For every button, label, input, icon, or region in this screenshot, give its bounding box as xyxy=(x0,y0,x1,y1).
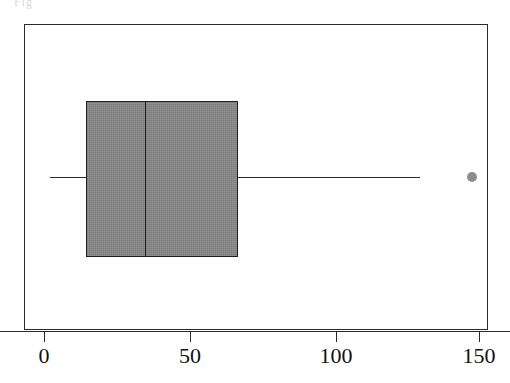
x-tick-50 xyxy=(190,331,191,342)
x-tick-150 xyxy=(479,331,480,342)
x-tick-label-0: 0 xyxy=(39,345,50,367)
whisker-right xyxy=(238,177,420,178)
x-tick-label-100: 100 xyxy=(320,345,353,367)
median-line xyxy=(145,101,146,257)
plot-canvas xyxy=(0,0,510,383)
x-tick-100 xyxy=(336,331,337,342)
box-iqr xyxy=(86,101,238,257)
whisker-left xyxy=(50,177,86,178)
boxplot-figure: Fig 0 50 100 150 xyxy=(0,0,510,383)
outlier-point xyxy=(467,172,477,182)
x-tick-0 xyxy=(44,331,45,342)
x-tick-label-50: 50 xyxy=(179,345,201,367)
x-tick-label-150: 150 xyxy=(463,345,496,367)
x-axis-line xyxy=(0,331,510,332)
